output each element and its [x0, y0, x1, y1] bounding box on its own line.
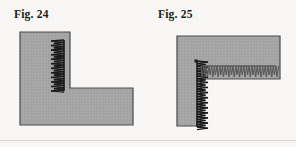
- figure-caption-24: Fig. 24: [14, 8, 49, 21]
- figure-caption-25: Fig. 25: [158, 8, 193, 21]
- l-block-24: [20, 32, 133, 125]
- figure-plate: Fig. 24 Fig. 25: [0, 0, 296, 147]
- figure-drawing-25: [148, 0, 296, 147]
- figure-panel-25: Fig. 25: [148, 0, 296, 147]
- l-block-25: [177, 36, 280, 126]
- figure-panel-24: Fig. 24: [0, 0, 148, 147]
- figure-drawing-24: [0, 0, 148, 147]
